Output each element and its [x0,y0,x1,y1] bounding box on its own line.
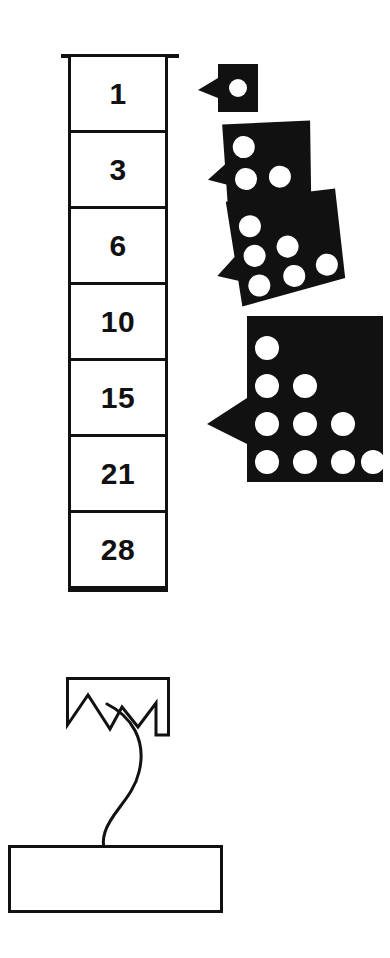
cell-value: 6 [109,231,126,261]
table-row: 1 [71,57,165,133]
callout-body [198,64,258,112]
diagram-canvas: 1 3 6 10 15 21 28 [0,0,390,958]
empty-caption-box[interactable] [8,845,223,913]
dot-callout-1 [196,60,266,116]
cell-value: 28 [101,535,135,565]
cell-value: 1 [109,79,126,109]
table-row: 21 [71,437,165,513]
dot-grid [229,79,247,97]
table-row: 15 [71,361,165,437]
dot-callout-6 [212,188,347,313]
cell-value: 15 [101,383,135,413]
cell-value: 21 [101,459,135,489]
cell-value: 10 [101,307,135,337]
callout-body [206,185,351,310]
table-row: 3 [71,133,165,209]
dot-callout-10 [205,312,385,487]
table-row: 6 [71,209,165,285]
cell-value: 3 [109,155,126,185]
curved-leader-line [95,700,175,852]
table-row: 28 [71,513,165,589]
table-row: 10 [71,285,165,361]
triangular-number-column: 1 3 6 10 15 21 28 [68,57,168,592]
